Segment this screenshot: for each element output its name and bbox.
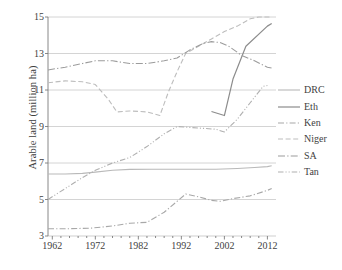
legend-line-swatch-drc bbox=[278, 85, 300, 95]
legend-item-ken[interactable]: Ken bbox=[278, 115, 342, 131]
legend-item-tan[interactable]: Tan bbox=[278, 164, 342, 180]
legend-line-swatch-eth bbox=[278, 102, 300, 112]
legend-item-niger[interactable]: Niger bbox=[278, 131, 342, 147]
legend-label: DRC bbox=[304, 85, 325, 95]
legend-label: Tan bbox=[304, 167, 319, 177]
legend-label: Ken bbox=[304, 118, 321, 128]
legend-line-swatch-ken bbox=[278, 118, 300, 128]
series-line-tan bbox=[48, 85, 267, 199]
series-line-ken bbox=[48, 189, 272, 229]
legend-item-drc[interactable]: DRC bbox=[278, 82, 342, 98]
legend-label: Niger bbox=[304, 134, 327, 144]
legend-item-sa[interactable]: SA bbox=[278, 148, 342, 164]
legend-label: Eth bbox=[304, 102, 318, 112]
series-line-drc bbox=[48, 166, 272, 174]
legend-line-swatch-tan bbox=[278, 167, 300, 177]
arable-land-line-chart: Arable land (million ha) 3579111315 1962… bbox=[0, 0, 342, 270]
legend-item-eth[interactable]: Eth bbox=[278, 98, 342, 114]
legend-line-swatch-niger bbox=[278, 134, 300, 144]
series-line-eth bbox=[211, 23, 271, 115]
legend-label: SA bbox=[304, 151, 317, 161]
legend-line-swatch-sa bbox=[278, 151, 300, 161]
chart-legend: DRCEthKenNigerSATan bbox=[278, 82, 342, 180]
